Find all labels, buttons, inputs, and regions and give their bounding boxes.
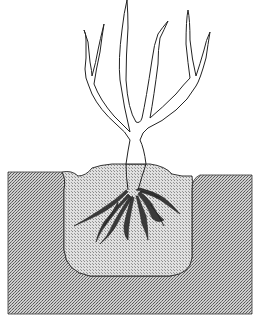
shrub-trunk-and-branches — [84, 0, 210, 164]
planting-illustration — [0, 0, 257, 326]
